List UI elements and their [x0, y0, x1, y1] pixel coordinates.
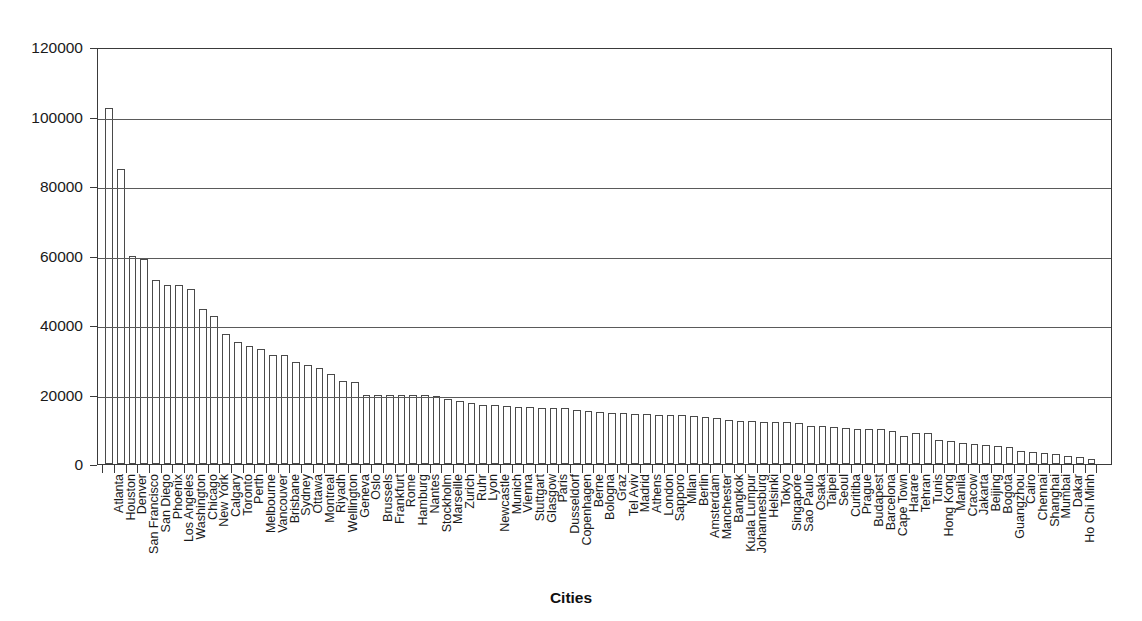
bar — [877, 429, 885, 464]
bar — [561, 408, 569, 464]
x-tick-mark — [1038, 465, 1039, 473]
gridline — [98, 119, 1111, 120]
bar — [433, 396, 441, 464]
x-tick-mark — [558, 465, 559, 473]
gridline — [98, 397, 1111, 398]
bar — [1088, 459, 1096, 464]
x-tick-mark — [897, 465, 898, 473]
x-tick-mark — [406, 465, 407, 473]
x-tick-mark — [137, 465, 138, 473]
bar — [421, 395, 429, 464]
bar — [1041, 453, 1049, 464]
x-tick-mark — [956, 465, 957, 473]
x-tick-mark — [921, 465, 922, 473]
bar — [585, 411, 593, 464]
y-tick-label: 120000 — [31, 40, 83, 56]
bar — [1017, 451, 1025, 464]
x-tick-mark — [991, 465, 992, 473]
bar — [491, 405, 499, 464]
bar — [725, 420, 733, 464]
bar — [573, 410, 581, 464]
bar — [386, 395, 394, 465]
x-tick-mark — [360, 465, 361, 473]
bar — [269, 355, 277, 464]
gridline — [98, 327, 1111, 328]
bar — [935, 440, 943, 464]
x-tick-mark — [862, 465, 863, 473]
bar — [889, 431, 897, 464]
x-tick-mark — [172, 465, 173, 473]
x-tick-mark — [453, 465, 454, 473]
x-tick-mark — [465, 465, 466, 473]
x-tick-mark — [652, 465, 653, 473]
x-tick-mark — [512, 465, 513, 473]
x-tick-mark — [219, 465, 220, 473]
x-tick-mark — [617, 465, 618, 473]
bar — [327, 374, 335, 464]
bar — [456, 401, 464, 464]
x-tick-mark — [710, 465, 711, 473]
x-tick-mark — [944, 465, 945, 473]
gridline — [98, 188, 1111, 189]
bar — [947, 441, 955, 464]
y-tick-mark — [90, 187, 97, 188]
x-tick-mark — [780, 465, 781, 473]
x-tick-mark — [535, 465, 536, 473]
bar — [409, 395, 417, 465]
bar — [398, 395, 406, 465]
y-tick-label: 40000 — [40, 318, 83, 334]
bar — [982, 445, 990, 464]
bar — [737, 421, 745, 464]
bar — [538, 408, 546, 464]
x-tick-mark — [523, 465, 524, 473]
y-tick-label: 20000 — [40, 388, 83, 404]
y-tick-mark — [90, 465, 97, 466]
x-tick-mark — [301, 465, 302, 473]
bar — [994, 446, 1002, 464]
bar — [690, 416, 698, 464]
bar — [479, 405, 487, 464]
x-tick-mark — [278, 465, 279, 473]
bar — [187, 289, 195, 464]
bar — [830, 427, 838, 464]
bar — [444, 399, 452, 464]
bar — [222, 334, 230, 464]
bar — [105, 108, 113, 464]
x-tick-mark — [208, 465, 209, 473]
x-tick-mark — [500, 465, 501, 473]
bar — [807, 426, 815, 464]
bar — [865, 429, 873, 464]
bar — [468, 403, 476, 464]
y-tick-label: 0 — [74, 457, 83, 473]
x-tick-mark — [289, 465, 290, 473]
x-tick-mark — [816, 465, 817, 473]
x-axis-labels: AtlantaHoustonDenverSan FranciscoSan Die… — [97, 474, 1112, 584]
bar — [1064, 456, 1072, 464]
x-tick-mark — [827, 465, 828, 473]
bar — [1006, 447, 1014, 464]
bar — [631, 414, 639, 464]
x-tick-mark — [909, 465, 910, 473]
y-tick-label: 80000 — [40, 179, 83, 195]
x-tick-mark — [243, 465, 244, 473]
x-tick-mark — [371, 465, 372, 473]
plot-area — [97, 48, 1112, 465]
bar — [620, 413, 628, 464]
x-tick-mark — [1073, 465, 1074, 473]
y-tick-mark — [90, 48, 97, 49]
x-tick-mark — [266, 465, 267, 473]
x-tick-mark — [839, 465, 840, 473]
bar — [140, 259, 148, 464]
x-tick-mark — [933, 465, 934, 473]
x-tick-mark — [395, 465, 396, 473]
x-tick-mark — [348, 465, 349, 473]
x-tick-mark — [254, 465, 255, 473]
x-tick-mark — [593, 465, 594, 473]
x-tick-mark — [699, 465, 700, 473]
x-tick-mark — [886, 465, 887, 473]
x-tick-mark — [851, 465, 852, 473]
bar — [608, 413, 616, 464]
y-tick-mark — [90, 326, 97, 327]
bar — [596, 412, 604, 464]
x-tick-mark — [722, 465, 723, 473]
